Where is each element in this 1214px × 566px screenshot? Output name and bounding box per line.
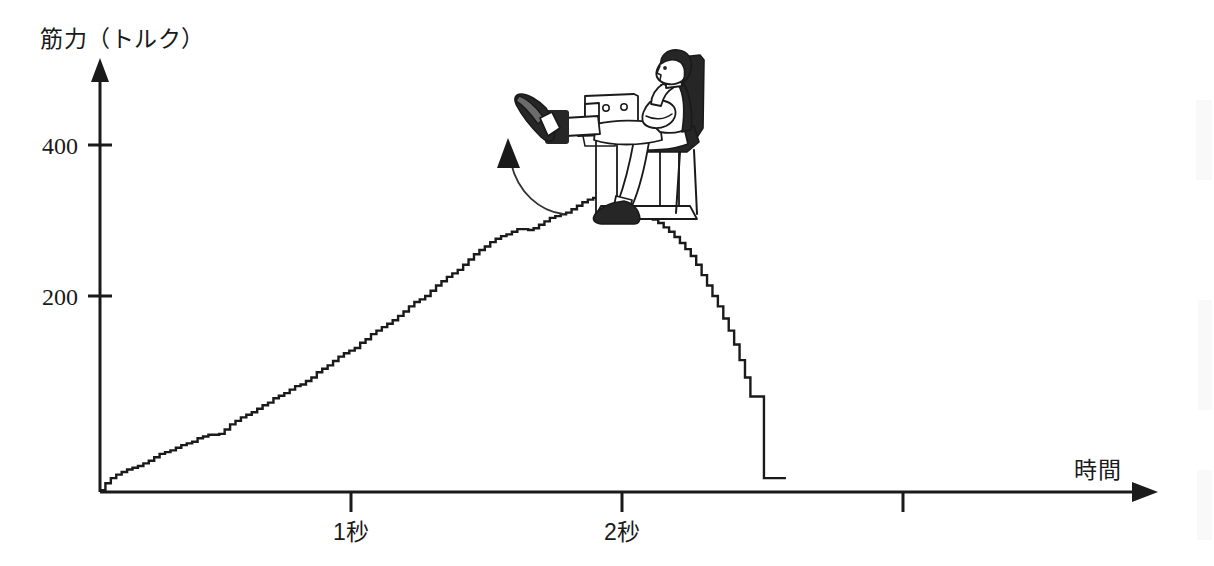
x-tick-label-1s: 1秒 [333,519,369,545]
seated-leg-extension-illustration [497,50,704,224]
scan-edge-artifacts [1196,100,1212,540]
y-axis-label: 筋力（トルク） [40,26,205,52]
torque-time-curve [100,197,786,490]
figure-root: 筋力（トルク） 時間 400 200 1秒 2秒 [0,0,1214,566]
curved-up-arrow-icon [497,138,520,168]
x-axis-label: 時間 [1074,457,1121,483]
y-tick-label-400: 400 [42,133,78,159]
x-tick-label-2s: 2秒 [604,519,640,545]
y-axis-arrow-icon [91,58,109,82]
motion-arc [511,163,563,214]
extended-shin [564,116,600,136]
torque-time-chart: 筋力（トルク） 時間 400 200 1秒 2秒 [0,0,1214,566]
y-tick-label-200: 200 [42,284,78,310]
seat-support-leg-2 [694,150,697,214]
eye [663,66,667,70]
x-axis-arrow-icon [1132,482,1158,502]
